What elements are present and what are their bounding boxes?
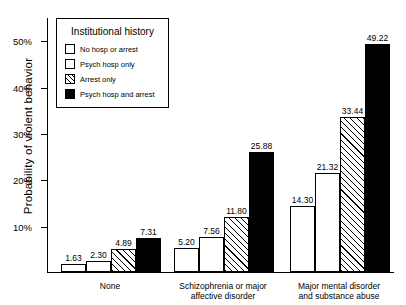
bar-chart: Probability of violent behavior 10%20%30… (0, 0, 406, 305)
bar: 49.22 (365, 44, 390, 272)
bar-value-label: 21.32 (317, 162, 338, 172)
y-tick-mark: 40% (41, 88, 48, 89)
bar-value-label: 2.30 (90, 250, 107, 260)
legend-entries: No hosp or arrestPsych hosp onlyArrest o… (65, 44, 160, 99)
bar: 5.20 (174, 248, 199, 272)
legend-label: Psych hosp and arrest (80, 90, 155, 99)
legend-entry: Arrest only (65, 74, 160, 84)
legend: Institutional history No hosp or arrestP… (56, 18, 169, 108)
legend-swatch-solid (65, 89, 75, 99)
bar-value-label: 25.88 (251, 141, 272, 151)
legend-swatch-open (65, 59, 75, 69)
bar-value-label: 33.44 (342, 106, 363, 116)
legend-label: No hosp or arrest (80, 45, 138, 54)
legend-label: Arrest only (80, 75, 116, 84)
legend-swatch-open (65, 44, 75, 54)
bar: 4.89 (111, 249, 136, 272)
bar-value-label: 5.20 (178, 237, 195, 247)
bar: 11.80 (224, 217, 249, 272)
y-tick-label: 20% (13, 175, 32, 186)
legend-entry: Psych hosp and arrest (65, 89, 160, 99)
bar: 7.56 (199, 237, 224, 272)
y-tick-label: 30% (13, 128, 32, 139)
y-tick-label: 10% (13, 221, 32, 232)
legend-entry: No hosp or arrest (65, 44, 160, 54)
bar: 21.32 (315, 173, 340, 272)
bar-group: 5.207.5611.8025.88 (174, 18, 274, 272)
y-tick-label: 50% (13, 36, 32, 47)
legend-swatch-hatch (65, 74, 75, 84)
legend-title: Institutional history (65, 26, 160, 37)
y-tick-mark: 20% (41, 180, 48, 181)
bar-value-label: 1.63 (65, 253, 82, 263)
bar: 1.63 (61, 264, 86, 272)
legend-entry: Psych hosp only (65, 59, 160, 69)
bar: 2.30 (86, 261, 111, 272)
bar-value-label: 11.80 (226, 206, 247, 216)
legend-label: Psych hosp only (80, 60, 135, 69)
bar-value-label: 7.56 (203, 226, 220, 236)
bar: 7.31 (136, 238, 161, 272)
y-tick-mark: 30% (41, 134, 48, 135)
x-category-label: Schizophrenia or major affective disorde… (163, 281, 283, 301)
bar-value-label: 49.22 (367, 33, 388, 43)
y-tick-mark: 10% (41, 227, 48, 228)
bar-group: 14.3021.3233.4449.22 (290, 18, 390, 272)
y-tick-mark: 50% (41, 41, 48, 42)
x-category-label: Major mental disorder and substance abus… (279, 281, 399, 301)
bar-value-label: 4.89 (115, 238, 132, 248)
bar-value-label: 7.31 (140, 227, 157, 237)
bar-value-label: 14.30 (292, 195, 313, 205)
y-tick-label: 40% (13, 82, 32, 93)
bar: 33.44 (340, 117, 365, 272)
x-category-label: None (50, 281, 170, 291)
bar: 14.30 (290, 206, 315, 272)
bar: 25.88 (249, 152, 274, 272)
